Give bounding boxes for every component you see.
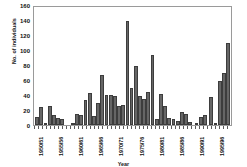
bar — [35, 117, 39, 125]
bar — [105, 95, 109, 125]
bar — [151, 55, 155, 125]
bar — [203, 115, 207, 126]
bar — [222, 73, 226, 125]
bar — [142, 99, 146, 125]
x-tick-mark — [227, 126, 231, 129]
bar — [44, 123, 48, 125]
bar — [75, 114, 79, 125]
bar — [130, 88, 134, 125]
bar — [184, 114, 188, 125]
bar — [39, 107, 43, 125]
bar — [195, 123, 199, 125]
bar — [84, 100, 88, 125]
x-tick-label: 1965/66 — [98, 137, 104, 156]
bar — [167, 118, 171, 125]
x-tick-label: 1960/61 — [78, 137, 84, 156]
x-tick-label: 1950/51 — [38, 137, 44, 156]
bar — [134, 66, 138, 125]
y-tick-label: 120 — [8, 33, 30, 39]
bar — [163, 106, 167, 125]
bar — [226, 43, 230, 125]
bar — [109, 95, 113, 125]
bar — [96, 103, 100, 125]
bar — [218, 81, 222, 125]
bar — [60, 119, 64, 125]
bar — [71, 123, 75, 125]
bar — [92, 116, 96, 125]
bar — [48, 106, 52, 125]
bar — [121, 105, 125, 125]
plot-area — [33, 6, 232, 126]
bar — [113, 96, 117, 125]
x-tick-label: 1975/76 — [139, 137, 145, 156]
bar — [214, 123, 218, 125]
y-tick-label: 140 — [8, 18, 30, 24]
bar — [180, 112, 184, 126]
bar — [172, 119, 176, 125]
bar — [126, 21, 130, 125]
bar — [117, 106, 121, 125]
y-tick-label: 100 — [8, 48, 30, 54]
x-tick-label: 1955/56 — [58, 137, 64, 156]
y-tick-label: 80 — [8, 63, 30, 69]
bar — [52, 115, 56, 126]
bar — [188, 122, 192, 125]
bar — [209, 97, 213, 125]
x-axis-tick-labels: 1950/511955/561960/611965/661970/711975/… — [33, 130, 232, 156]
bar — [88, 93, 92, 125]
x-tick-label: 1980/81 — [159, 137, 165, 156]
x-tick-label: 1985/86 — [179, 137, 185, 156]
bar — [199, 117, 203, 125]
bar — [100, 75, 104, 125]
bar — [56, 118, 60, 125]
bar — [146, 92, 150, 125]
bar — [176, 121, 180, 125]
bar — [159, 94, 163, 125]
bar — [138, 96, 142, 125]
y-tick-label: 160 — [8, 3, 30, 9]
bar-series — [34, 7, 231, 125]
bar — [155, 119, 159, 125]
bar — [79, 115, 83, 125]
y-tick-label: 0 — [8, 123, 30, 129]
bar-chart-figure: No. of individuals 020406080100120140160… — [0, 0, 247, 167]
y-axis-tick-labels: 020406080100120140160 — [6, 0, 30, 167]
y-tick-label: 40 — [8, 93, 30, 99]
y-tick-label: 60 — [8, 78, 30, 84]
x-axis-title: Year — [0, 161, 247, 167]
x-tick-label: 1990/91 — [199, 137, 205, 156]
y-tick-label: 20 — [8, 108, 30, 114]
x-tick-label: 1970/71 — [118, 137, 124, 156]
x-tick-label: 1995/96 — [219, 137, 225, 156]
